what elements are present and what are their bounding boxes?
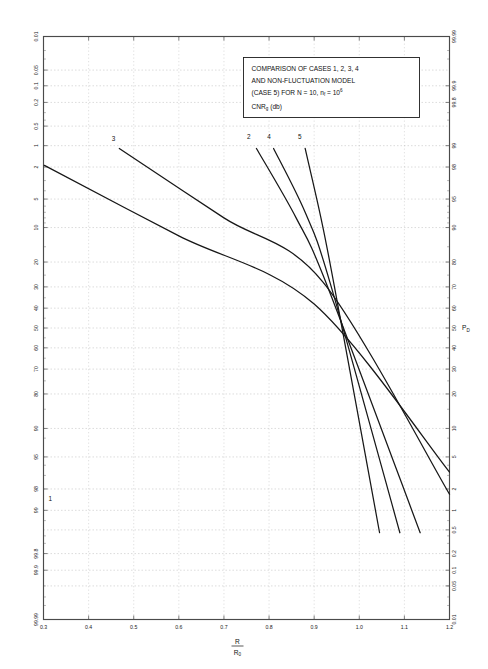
y-right-tick-label: 10: [451, 425, 457, 431]
annotation-line-3-text: (CASE 5) FOR N = 10, n: [252, 89, 325, 97]
curve-labels-layer: 13245: [48, 133, 301, 502]
y-left-tick-label: 2: [33, 165, 39, 168]
series-curve-3: [119, 148, 449, 494]
series-curve-5: [305, 148, 379, 532]
annotation-line-2: AND NON-FLUCTUATION MODEL: [252, 77, 356, 84]
x-tick-label: 0.7: [220, 624, 227, 630]
curves-layer: [44, 148, 449, 532]
y-right-tick-label: 40: [451, 345, 457, 351]
series-label-3: 3: [112, 135, 116, 142]
y-left-tick-label: 99.8: [33, 548, 39, 558]
grid-layer: [44, 37, 450, 620]
y-right-tick-label: 0.1: [451, 566, 457, 573]
y-right-tick-label: 2: [451, 487, 457, 490]
annotation-line-1: COMPARISON OF CASES 1, 2, 3, 4: [252, 65, 360, 72]
series-label-1: 1: [48, 495, 52, 502]
series-curve-1: [44, 165, 449, 472]
y-right-tick-label: 99.99: [451, 30, 457, 43]
y-left-tick-label: 20: [33, 259, 39, 265]
x-tick-label: 1.1: [401, 624, 408, 630]
y-left-tick-label: 80: [33, 391, 39, 397]
y-axis-right-title-subscript: D: [466, 328, 470, 333]
y-right-tick-label: 99.9: [451, 81, 457, 91]
y-right-tick-label: 20: [451, 391, 457, 397]
annotation-line-4-text: CNR: [252, 103, 267, 110]
y-left-tick-label: 90: [33, 425, 39, 431]
y-left-tick-label: 99.9: [33, 565, 39, 575]
chart-page: 0.30.40.50.60.70.80.91.01.11.20.010.050.…: [0, 0, 488, 669]
y-left-tick-label: 0.2: [33, 99, 39, 106]
annotation-box: COMPARISON OF CASES 1, 2, 3, 4 AND NON-F…: [244, 58, 420, 118]
y-left-tick-label: 0.5: [33, 122, 39, 129]
annotation-line-3-exponent: 6: [340, 88, 343, 93]
y-right-tick-label: 0.5: [451, 526, 457, 533]
series-label-2: 2: [247, 133, 251, 140]
y-left-tick-label: 0.1: [33, 82, 39, 89]
y-left-tick-label: 0.01: [33, 31, 39, 41]
x-axis-title-denominator-subscript: 0: [239, 652, 242, 657]
y-left-tick-label: 99.99: [33, 613, 39, 626]
probability-plot: 0.30.40.50.60.70.80.91.01.11.20.010.050.…: [0, 0, 488, 669]
y-right-tick-label: 30: [451, 366, 457, 372]
x-tick-label: 0.4: [85, 624, 92, 630]
y-left-tick-label: 1: [33, 144, 39, 147]
x-axis-title: R R0: [232, 638, 244, 658]
y-left-tick-label: 98: [33, 486, 39, 492]
y-right-tick-label: 99: [451, 143, 457, 149]
y-right-tick-label: 90: [451, 225, 457, 231]
y-right-tick-label: 98: [451, 164, 457, 170]
series-curve-2: [256, 148, 420, 532]
y-left-tick-label: 40: [33, 305, 39, 311]
y-right-tick-label: 1: [451, 509, 457, 512]
x-tick-label: 0.9: [311, 624, 318, 630]
y-right-tick-label: 70: [451, 284, 457, 290]
y-left-tick-label: 0.05: [33, 65, 39, 75]
series-curve-4: [274, 148, 400, 532]
x-tick-label: 0.8: [265, 624, 272, 630]
axis-labels-layer: 0.30.40.50.60.70.80.91.01.11.20.010.050.…: [33, 30, 457, 630]
annotation-line-3-text-b: = 10: [325, 89, 340, 96]
x-axis-title-numerator: R: [235, 638, 240, 645]
y-left-tick-label: 5: [33, 198, 39, 201]
y-right-tick-label: 95: [451, 196, 457, 202]
y-left-tick-label: 30: [33, 284, 39, 290]
y-right-tick-label: 0.05: [451, 581, 457, 591]
y-left-tick-label: 95: [33, 454, 39, 460]
y-left-tick-label: 10: [33, 225, 39, 231]
y-right-tick-label: 60: [451, 305, 457, 311]
y-right-tick-label: 80: [451, 259, 457, 265]
x-tick-label: 0.3: [40, 624, 47, 630]
series-label-5: 5: [298, 133, 302, 140]
annotation-line-4-text-b: (db): [268, 103, 282, 111]
y-right-tick-label: 0.2: [451, 550, 457, 557]
x-axis-title-denominator: R0: [234, 649, 242, 658]
y-right-tick-label: 0.01: [451, 614, 457, 624]
y-axis-right-title: PD: [462, 324, 470, 333]
y-left-tick-label: 70: [33, 366, 39, 372]
x-tick-label: 1.0: [356, 624, 363, 630]
y-left-tick-label: 60: [33, 345, 39, 351]
y-right-tick-label: 99.8: [451, 97, 457, 107]
x-tick-label: 0.6: [175, 624, 182, 630]
y-right-tick-label: 50: [451, 325, 457, 331]
y-left-tick-label: 99: [33, 507, 39, 513]
y-left-tick-label: 50: [33, 325, 39, 331]
y-right-tick-label: 5: [451, 455, 457, 458]
series-label-4: 4: [267, 133, 271, 140]
x-tick-label: 0.5: [130, 624, 137, 630]
